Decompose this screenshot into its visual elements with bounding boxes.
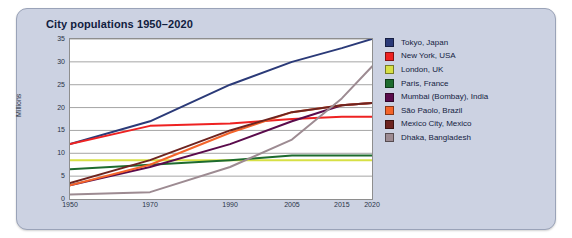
legend-label: São Paolo, Brazil: [401, 107, 462, 115]
x-axis-tick-label: 1990: [222, 201, 238, 208]
legend-label: Mexico City, Mexico: [401, 120, 472, 128]
x-axis-tick-label: 1970: [142, 201, 158, 208]
x-axis-tick-label: 1950: [62, 201, 78, 208]
x-axis-tick-label: 2005: [284, 201, 300, 208]
y-axis-tick-label: 5: [43, 172, 65, 179]
x-axis-tick-label: 2015: [334, 201, 350, 208]
legend-label: Mumbai (Bombay), India: [401, 93, 488, 101]
legend-color-swatch: [385, 65, 394, 74]
y-axis-tick-label: 35: [43, 35, 65, 42]
legend-item[interactable]: Tokyo, Japan: [385, 36, 550, 50]
legend-label: Tokyo, Japan: [401, 39, 448, 47]
legend-color-swatch: [385, 79, 394, 88]
y-axis-tick-label: 30: [43, 57, 65, 64]
legend-color-swatch: [385, 120, 394, 129]
plot-wrapper: Millions 05101520253035 1950197019902005…: [17, 9, 557, 231]
legend-label: New York, USA: [401, 52, 456, 60]
legend-item[interactable]: Mumbai (Bombay), India: [385, 90, 550, 104]
y-axis-tick-label: 10: [43, 149, 65, 156]
y-axis-label: Millions: [15, 94, 22, 117]
legend-label: London, UK: [401, 66, 443, 74]
legend-color-swatch: [385, 106, 394, 115]
legend-color-swatch: [385, 93, 394, 102]
legend-color-swatch: [385, 52, 394, 61]
legend-item[interactable]: São Paolo, Brazil: [385, 104, 550, 118]
y-axis-tick-label: 20: [43, 103, 65, 110]
legend-color-swatch: [385, 38, 394, 47]
chart-legend: Tokyo, JapanNew York, USALondon, UKParis…: [385, 36, 550, 145]
legend-item[interactable]: Paris, France: [385, 77, 550, 91]
legend-label: Paris, France: [401, 80, 449, 88]
y-axis-ticks: 05101520253035: [39, 38, 65, 198]
y-axis-tick-label: 25: [43, 80, 65, 87]
plot-area: [69, 38, 373, 200]
legend-color-swatch: [385, 133, 394, 142]
legend-item[interactable]: London, UK: [385, 63, 550, 77]
x-axis-ticks: 195019701990200520152020: [69, 201, 373, 215]
legend-item[interactable]: New York, USA: [385, 50, 550, 64]
y-axis-tick-label: 15: [43, 126, 65, 133]
legend-item[interactable]: Mexico City, Mexico: [385, 118, 550, 132]
chart-panel: City populations 1950–2020 Millions 0510…: [16, 8, 556, 230]
legend-item[interactable]: Dhaka, Bangladesh: [385, 131, 550, 145]
x-axis-tick-label: 2020: [364, 201, 380, 208]
legend-label: Dhaka, Bangladesh: [401, 134, 471, 142]
series-lines: [70, 39, 372, 199]
